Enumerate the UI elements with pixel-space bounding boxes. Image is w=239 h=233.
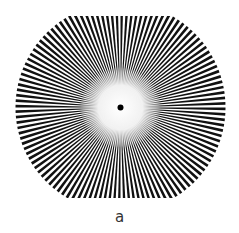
siemens-star-pattern — [0, 0, 239, 233]
center-dot — [118, 105, 124, 111]
figure-caption: a — [0, 208, 239, 226]
